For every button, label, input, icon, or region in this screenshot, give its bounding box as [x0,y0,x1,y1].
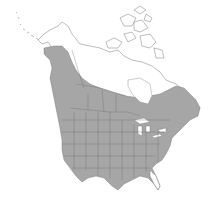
range-map: Species range map of North America [0,0,215,200]
arctic-islands [106,6,164,58]
north-america-map [0,0,215,200]
aleutian-islands [16,12,44,42]
